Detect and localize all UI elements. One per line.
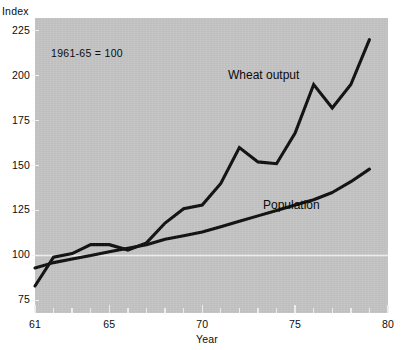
y-tick-label: 175 [2,114,30,126]
y-tickmark [31,75,39,76]
x-axis-title: Year [196,333,218,345]
x-tick-label: 75 [289,318,301,330]
y-tick-label: 125 [2,203,30,215]
x-tick-label: 70 [196,318,208,330]
x-tickmark-minor [183,308,184,313]
x-tickmark-minor [239,308,240,313]
y-tick-label: 150 [2,159,30,171]
x-tickmark-major [387,305,388,313]
y-tick-label: 225 [2,24,30,36]
series-label-population: Population [263,198,320,212]
x-tickmark-minor [369,308,370,313]
x-tickmark-minor [350,308,351,313]
chart-figure: Index 75100125150175200225 1961-65 = 100… [0,0,404,350]
y-tickmark [31,255,39,256]
y-tickmark [31,210,39,211]
y-axis-tick-labels: 75100125150175200225 [0,0,30,350]
y-tickmark [31,120,39,121]
x-tickmark-minor [220,308,221,313]
x-tickmark-minor [53,308,54,313]
plot-svg [35,18,388,313]
x-tickmark-minor [164,308,165,313]
x-tickmark-minor [127,308,128,313]
x-axis-tick-labels: 6165707580 [0,318,404,334]
index-base-note: 1961-65 = 100 [51,47,123,59]
x-tickmark-minor [276,308,277,313]
x-tickmark-minor [313,308,314,313]
x-tickmark-minor [257,308,258,313]
y-tickmark [31,165,39,166]
y-tick-label: 200 [2,69,30,81]
y-tick-label: 100 [2,248,30,260]
x-tick-label: 61 [29,318,41,330]
plot-area [35,18,388,313]
x-tickmark-minor [332,308,333,313]
x-tickmark-major [202,305,203,313]
series-label-wheat-output: Wheat output [228,68,299,82]
x-tickmark-major [34,305,35,313]
x-tick-label: 65 [103,318,115,330]
y-tick-label: 75 [2,293,30,305]
y-tickmark [31,300,39,301]
y-tickmark [31,30,39,31]
x-tickmark-minor [71,308,72,313]
series-line-wheat-output [35,40,369,286]
series-line-population [35,169,369,268]
x-tickmark-major [294,305,295,313]
x-tickmark-minor [146,308,147,313]
x-tick-label: 80 [382,318,394,330]
x-tickmark-major [109,305,110,313]
x-tickmark-minor [90,308,91,313]
